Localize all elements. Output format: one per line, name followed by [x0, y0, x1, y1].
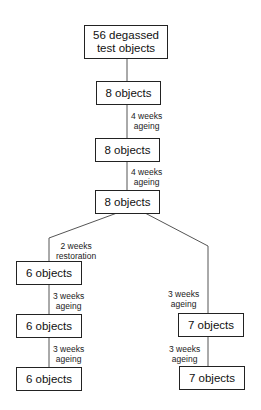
node-r1: 7 objects: [178, 313, 244, 337]
edge-label-n3-r1: 3 weeks ageing: [168, 289, 199, 309]
node-l2: 6 objects: [16, 314, 82, 338]
edge-label-line1: 4 weeks: [131, 167, 162, 177]
edge-label-l1-l2: 3 weeks ageing: [53, 291, 84, 311]
node-l2-label: 6 objects: [26, 320, 72, 333]
edge-label-line1: 2 weeks: [56, 241, 96, 251]
edge-label-line1: 3 weeks: [169, 344, 200, 354]
node-start: 56 degassed test objects: [84, 25, 168, 59]
edge-label-r1-r2: 3 weeks ageing: [169, 344, 200, 364]
node-r1-label: 7 objects: [188, 319, 234, 332]
node-l3: 6 objects: [16, 367, 82, 391]
edge-label-n1-n2: 4 weeks ageing: [131, 111, 162, 131]
edge-label-line2: ageing: [53, 354, 84, 364]
edge-label-line2: restoration: [56, 251, 96, 261]
node-r2: 7 objects: [179, 366, 245, 390]
edge-label-line2: ageing: [131, 121, 162, 131]
node-l3-label: 6 objects: [26, 373, 72, 386]
edge-label-n3-l1: 2 weeks restoration: [56, 241, 96, 261]
edge-label-l2-l3: 3 weeks ageing: [53, 344, 84, 364]
edge-label-n2-n3: 4 weeks ageing: [131, 167, 162, 187]
node-n1: 8 objects: [96, 81, 161, 105]
edge-label-line1: 4 weeks: [131, 111, 162, 121]
node-n3-label: 8 objects: [104, 196, 150, 209]
node-start-line1: 56 degassed: [93, 29, 159, 42]
edge-label-line1: 3 weeks: [53, 291, 84, 301]
edge-label-line2: ageing: [168, 299, 199, 309]
node-n2: 8 objects: [95, 138, 160, 162]
node-r2-label: 7 objects: [189, 372, 235, 385]
node-n1-label: 8 objects: [105, 87, 151, 100]
edge-label-line1: 3 weeks: [53, 344, 84, 354]
node-start-line2: test objects: [97, 42, 155, 55]
edge-label-line2: ageing: [169, 354, 200, 364]
node-l1: 6 objects: [16, 261, 82, 285]
node-n3: 8 objects: [95, 190, 160, 214]
edge-label-line2: ageing: [131, 177, 162, 187]
node-l1-label: 6 objects: [26, 267, 72, 280]
edge-label-line1: 3 weeks: [168, 289, 199, 299]
edge-label-line2: ageing: [53, 301, 84, 311]
node-n2-label: 8 objects: [104, 144, 150, 157]
